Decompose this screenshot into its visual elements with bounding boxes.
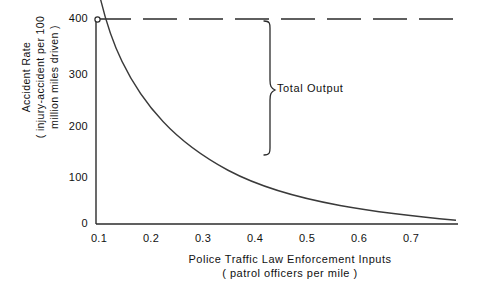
- curve-start-marker: [95, 17, 100, 22]
- accident-rate-chart: 400 300 200 100 0 0.1 0.2 0.3 0.4 0.5 0.…: [0, 0, 477, 292]
- x-tick-label-0.1: 0.1: [81, 232, 117, 244]
- accident-rate-curve: [98, 0, 456, 220]
- x-tick-label-0.7: 0.7: [393, 232, 429, 244]
- y-axis-title: Accident Rate ( injury-accident per 100 …: [19, 0, 61, 177]
- total-output-annotation-label: Total Output: [277, 82, 344, 94]
- y-axis-title-line3: million miles driven ): [47, 0, 61, 177]
- y-axis-title-line2: ( injury-accident per 100: [33, 0, 47, 177]
- x-tick-label-0.2: 0.2: [133, 232, 169, 244]
- x-tick-label-0.4: 0.4: [237, 232, 273, 244]
- x-axis-title-line2: ( patrol officers per mile ): [120, 266, 460, 280]
- x-axis-title-line1: Police Traffic Law Enforcement Inputs: [189, 253, 392, 265]
- chart-plot-area: [0, 0, 477, 292]
- total-output-brace: [264, 21, 275, 155]
- x-tick-label-0.3: 0.3: [185, 232, 221, 244]
- y-axis-title-line1: Accident Rate: [20, 42, 32, 113]
- x-axis-title: Police Traffic Law Enforcement Inputs ( …: [120, 252, 460, 280]
- x-tick-label-0.6: 0.6: [341, 232, 377, 244]
- x-tick-label-0.5: 0.5: [289, 232, 325, 244]
- y-tick-label-0: 0: [54, 217, 88, 229]
